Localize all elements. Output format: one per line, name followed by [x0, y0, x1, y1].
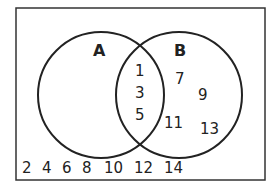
b-only-value: 13 — [200, 120, 219, 138]
outside-value: 4 — [42, 159, 52, 177]
venn-diagram: A B 1 3 5 7 9 11 13 2 4 6 8 10 12 14 — [0, 0, 271, 181]
outside-value: 2 — [22, 159, 32, 177]
set-a-label: A — [93, 41, 106, 60]
b-only-value: 11 — [164, 114, 183, 132]
b-only-value: 9 — [198, 86, 208, 104]
outside-value: 14 — [164, 159, 183, 177]
intersection-value: 5 — [135, 106, 145, 124]
intersection-value: 3 — [135, 84, 145, 102]
outside-value: 10 — [104, 159, 123, 177]
outside-value: 6 — [62, 159, 72, 177]
outside-value: 8 — [82, 159, 92, 177]
set-b-label: B — [174, 41, 186, 60]
b-only-value: 7 — [175, 70, 185, 88]
intersection-value: 1 — [135, 62, 145, 80]
outside-value: 12 — [134, 159, 153, 177]
